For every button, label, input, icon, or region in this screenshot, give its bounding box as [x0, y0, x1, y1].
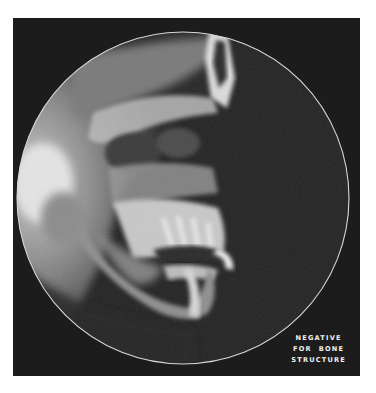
caption-negative-for-bone-structure: NEGATIVE FOR BONE STRUCTURE: [291, 333, 346, 366]
caption-line-2: FOR BONE: [291, 344, 346, 355]
xray-panel: NEGATIVE FOR BONE STRUCTURE: [13, 18, 360, 376]
caption-line-3: STRUCTURE: [291, 355, 346, 366]
caption-line-1: NEGATIVE: [291, 333, 346, 344]
skull-xray-image: [13, 18, 360, 376]
